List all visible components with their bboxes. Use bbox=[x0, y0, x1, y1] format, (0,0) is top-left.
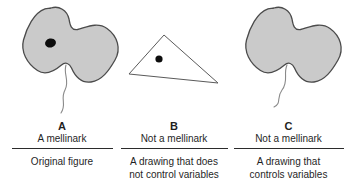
blob-body bbox=[23, 7, 118, 82]
panel-c: C Not a mellinark A drawing that control… bbox=[231, 120, 346, 181]
blob-tail bbox=[61, 65, 67, 113]
panel-a-caption: A mellinark bbox=[8, 133, 116, 145]
panel-a-divider bbox=[12, 148, 113, 149]
panel-c-letter: C bbox=[231, 120, 346, 132]
panel-b-description: A drawing that does not control variable… bbox=[118, 156, 230, 181]
figure-c-blob-no-dot bbox=[243, 4, 345, 112]
panel-a-letter: A bbox=[8, 120, 116, 132]
blob-body bbox=[246, 7, 341, 82]
panel-c-divider bbox=[234, 148, 344, 149]
panel-b-caption: Not a mellinark bbox=[118, 133, 230, 145]
panel-b-divider bbox=[121, 148, 228, 149]
panel-c-description: A drawing that controls variables bbox=[231, 156, 346, 181]
triangle-dot bbox=[155, 55, 162, 62]
mellinark-comparison-figure: A A mellinark Original figure B Not a me… bbox=[0, 0, 353, 192]
triangle-body bbox=[129, 35, 218, 83]
panel-a-description: Original figure bbox=[8, 156, 116, 169]
panel-a: A A mellinark Original figure bbox=[8, 120, 116, 169]
panel-b-letter: B bbox=[118, 120, 230, 132]
panel-c-caption: Not a mellinark bbox=[231, 133, 346, 145]
figure-b-triangle bbox=[124, 30, 224, 88]
figure-a-mellinark-blob bbox=[20, 4, 125, 118]
panel-b: B Not a mellinark A drawing that does no… bbox=[118, 120, 230, 181]
